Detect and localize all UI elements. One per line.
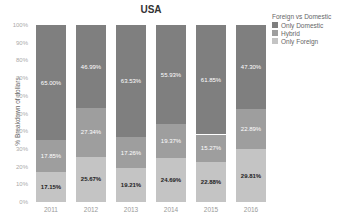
legend: Foreign vs Domestic Only Domestic Hybrid… — [272, 13, 331, 45]
bar-2015[interactable]: 22.88%15.27%61.85% — [196, 25, 226, 202]
x-tick: 2011 — [36, 206, 66, 213]
legend-label: Only Foreign — [281, 38, 318, 45]
y-tick: 60% — [0, 93, 28, 99]
bar-segment-only-foreign[interactable]: 17.15% — [36, 172, 66, 202]
legend-label: Only Domestic — [281, 22, 323, 29]
bar-segment-only-domestic[interactable]: 61.85% — [196, 25, 226, 134]
bar-segment-only-foreign[interactable]: 19.21% — [116, 168, 146, 202]
y-tick: 0% — [0, 199, 28, 205]
bar-2014[interactable]: 24.69%19.37%55.93% — [156, 25, 186, 202]
bar-segment-only-domestic[interactable]: 55.93% — [156, 25, 186, 124]
bar-segment-only-domestic[interactable]: 47.30% — [236, 25, 266, 109]
y-tick: 70% — [0, 75, 28, 81]
x-tick: 2012 — [76, 206, 106, 213]
x-tick: 2015 — [196, 206, 226, 213]
y-tick: 40% — [0, 128, 28, 134]
y-tick: 100% — [0, 22, 28, 28]
bar-2013[interactable]: 19.21%17.26%63.53% — [116, 25, 146, 202]
bar-2011[interactable]: 17.15%17.85%65.00% — [36, 25, 66, 202]
legend-item-only-domestic[interactable]: Only Domestic — [272, 21, 331, 29]
bar-segment-only-foreign[interactable]: 22.88% — [196, 162, 226, 202]
bar-2016[interactable]: 29.81%22.89%47.30% — [236, 25, 266, 202]
bar-segment-only-foreign[interactable]: 25.67% — [76, 157, 106, 202]
legend-label: Hybrid — [281, 30, 300, 37]
y-tick: 20% — [0, 164, 28, 170]
bar-segment-hybrid[interactable]: 17.85% — [36, 140, 66, 172]
y-tick: 30% — [0, 146, 28, 152]
bar-segment-hybrid[interactable]: 22.89% — [236, 109, 266, 150]
bar-segment-only-domestic[interactable]: 63.53% — [116, 25, 146, 137]
bar-segment-only-domestic[interactable]: 46.99% — [76, 25, 106, 108]
legend-title: Foreign vs Domestic — [272, 13, 331, 20]
bar-segment-hybrid[interactable]: 17.26% — [116, 137, 146, 168]
legend-item-hybrid[interactable]: Hybrid — [272, 29, 331, 37]
y-tick: 80% — [0, 57, 28, 63]
bar-segment-only-foreign[interactable]: 24.69% — [156, 158, 186, 202]
legend-swatch-icon — [272, 38, 278, 44]
legend-item-only-foreign[interactable]: Only Foreign — [272, 37, 331, 45]
x-tick: 2016 — [236, 206, 266, 213]
x-tick: 2013 — [116, 206, 146, 213]
y-tick: 50% — [0, 111, 28, 117]
legend-swatch-icon — [272, 30, 278, 36]
bar-segment-only-domestic[interactable]: 65.00% — [36, 25, 66, 140]
bar-2012[interactable]: 25.67%27.34%46.99% — [76, 25, 106, 202]
bar-segment-only-foreign[interactable]: 29.81% — [236, 149, 266, 202]
bar-segment-hybrid[interactable]: 19.37% — [156, 124, 186, 158]
y-tick: 90% — [0, 40, 28, 46]
bar-segment-hybrid[interactable]: 15.27% — [196, 135, 226, 162]
x-tick: 2014 — [156, 206, 186, 213]
y-tick: 10% — [0, 181, 28, 187]
chart-title: USA — [36, 4, 266, 15]
legend-swatch-icon — [272, 22, 278, 28]
bar-segment-hybrid[interactable]: 27.34% — [76, 108, 106, 156]
